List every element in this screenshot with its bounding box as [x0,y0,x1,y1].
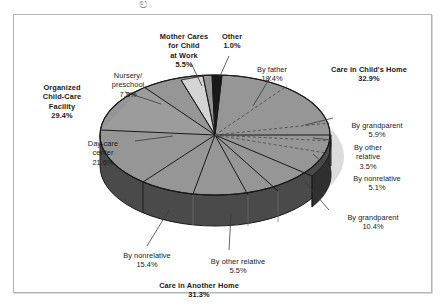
label-by-other-relative-childs-home-text: By other relative [354,143,382,161]
pie-chart-figure: Organized Child-Care Facility 29.4% Nurs… [13,14,432,293]
label-mother-cares-at-work-pct: 5.5% [145,60,223,69]
label-day-care-center-pct: 21.6% [73,158,133,167]
label-care-in-childs-home-pct: 32.9% [313,74,425,83]
label-by-grandparent-another-home: By grandparent 10.4% [331,204,415,241]
label-other-pct: 1.0% [209,41,255,50]
label-day-care-center-text: Day-care center [88,139,118,157]
label-nursery-preschool-text: Nursery/ preschool [112,71,145,89]
label-care-in-another-home: Care in Another Home 31.3% [137,272,261,305]
label-by-other-relative-another-home-text: By other relative [211,257,265,266]
label-organized-child-care-facility-text: Organized Child-Care Facility [43,83,81,110]
label-organized-child-care-facility: Organized Child-Care Facility 29.4% [23,74,101,129]
label-care-in-another-home-pct: 31.3% [137,290,261,299]
label-by-nonrelative-childs-home-pct: 5.1% [335,183,419,192]
label-mother-cares-at-work-text: Mother Cares for Child at Work [160,32,208,59]
label-by-grandparent-another-home-text: By grandparent [347,213,398,222]
screenshot-stage: ಲ [0,0,446,305]
label-other: Other 1.0% [209,23,255,60]
label-by-nonrelative-another-home-text: By nonrelative [123,251,171,260]
cropped-glyph-fragment: ಲ [139,0,147,12]
label-care-in-childs-home: Care in Child's Home 32.9% [313,56,425,93]
label-organized-child-care-facility-pct: 29.4% [23,111,101,120]
label-care-in-childs-home-text: Care in Child's Home [331,65,407,74]
label-by-father-pct: 18.4% [241,74,303,83]
label-by-grandparent-childs-home-text: By grandparent [351,121,402,130]
label-other-text: Other [222,32,242,41]
label-by-nonrelative-childs-home: By nonrelative 5.1% [335,165,419,202]
label-by-father: By father 18.4% [241,56,303,93]
label-day-care-center: Day-care center 21.6% [73,130,133,176]
label-by-father-text: By father [257,65,287,74]
label-by-grandparent-another-home-pct: 10.4% [331,222,415,231]
label-by-nonrelative-childs-home-text: By nonrelative [353,174,401,183]
label-care-in-another-home-text: Care in Another Home [159,281,239,290]
label-nursery-preschool-pct: 7.8% [97,90,159,99]
label-by-nonrelative-another-home-pct: 15.4% [105,260,189,269]
